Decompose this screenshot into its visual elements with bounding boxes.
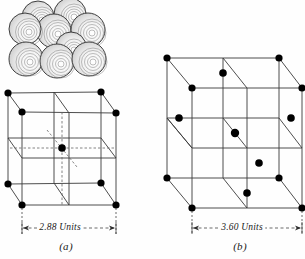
atom-front-top-left: [188, 84, 195, 91]
atom-front-top-left: [18, 108, 25, 115]
bcc-dimension-label: 2.88 Units: [37, 222, 83, 232]
figure-canvas: [0, 0, 305, 259]
atom-back-bottom-right: [97, 179, 104, 186]
atom-back-bottom-right: [275, 174, 282, 181]
sphere-front-bottom-center: [40, 44, 75, 78]
atom-back-top-right: [97, 88, 104, 95]
atom-front-bottom-right: [112, 201, 119, 208]
bcc-center-guides: [8, 112, 116, 205]
sphere-front-bottom-right: [72, 42, 107, 76]
sphere-front-bottom-left: [9, 42, 44, 76]
atom-right-face-center: [287, 114, 295, 122]
atom-back-top-left: [4, 89, 11, 96]
sphere-cluster-group: [9, 0, 107, 78]
caption-a: (a): [59, 240, 73, 252]
atom-bottom-face-center: [243, 189, 251, 197]
atom-left-face-center: [175, 114, 183, 122]
atom-front-top-right: [298, 84, 305, 91]
crystal-structure-figure: 2.88 Units 3.60 Units (a) (b): [0, 0, 305, 259]
atom-front-bottom-right: [298, 204, 305, 211]
atom-front-bottom-left: [188, 204, 195, 211]
atom-body-center: [58, 144, 66, 152]
caption-b: (b): [233, 240, 247, 252]
fcc-atoms: [163, 54, 305, 211]
atom-front-face-center: [255, 159, 263, 167]
atom-back-top-right: [275, 54, 282, 61]
atom-back-top-left: [163, 54, 170, 61]
atom-back-bottom-left: [163, 174, 170, 181]
atom-top-face-center: [219, 69, 227, 77]
fcc-dimension-label: 3.60 Units: [219, 222, 265, 232]
atom-back-bottom-left: [4, 180, 11, 187]
atom-front-bottom-left: [18, 201, 25, 208]
atom-front-top-right: [112, 109, 119, 116]
atom-back-face-center: [231, 129, 239, 137]
